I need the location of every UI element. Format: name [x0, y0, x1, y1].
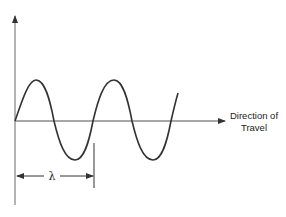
wavelength-symbol: λ [49, 170, 56, 183]
direction-label: Direction of Travel [230, 110, 278, 133]
direction-label-line1: Direction of [230, 110, 278, 121]
sine-wave [15, 80, 178, 160]
wavelength-marker: λ [17, 143, 94, 188]
direction-label-line2: Travel [241, 122, 267, 133]
wave-diagram: λ Direction of Travel [0, 0, 286, 217]
